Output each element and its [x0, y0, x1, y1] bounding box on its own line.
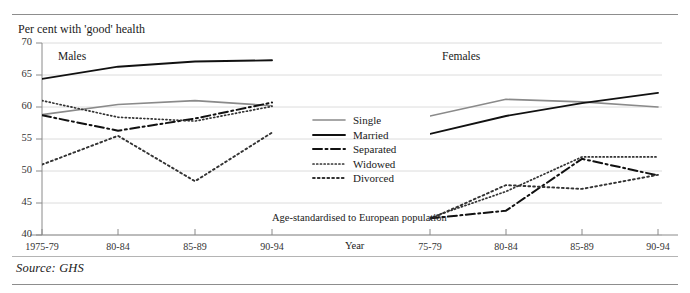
legend-item-single: Single	[312, 113, 396, 128]
legend-label: Separated	[353, 143, 396, 155]
series-group-males	[42, 60, 272, 181]
source-rule-top	[12, 256, 678, 257]
series-line-single	[42, 101, 272, 115]
axis-note: Age-standardised to European population	[272, 212, 447, 223]
legend-item-divorced: Divorced	[312, 171, 396, 186]
legend-item-separated: Separated	[312, 142, 396, 157]
bottom-rule	[12, 284, 678, 285]
y-tick-55: 55	[8, 132, 32, 143]
legend-label: Married	[353, 129, 388, 141]
legend: SingleMarriedSeparatedWidowedDivorced	[312, 113, 396, 186]
y-tick-45: 45	[8, 196, 32, 207]
y-tick-50: 50	[8, 164, 32, 175]
panel-title-females: Females	[442, 50, 480, 62]
y-tick-40: 40	[8, 228, 32, 239]
source-note: Source: GHS	[16, 261, 84, 276]
series-line-divorced	[430, 175, 658, 219]
x-tick-85-89: 85-89	[552, 241, 612, 252]
legend-label: Divorced	[353, 172, 394, 184]
x-tick-1975-79: 1975-79	[12, 241, 72, 252]
x-tick-90-94: 90-94	[242, 241, 302, 252]
legend-label: Single	[353, 114, 381, 126]
x-axis-label: Year	[345, 240, 364, 251]
legend-item-married: Married	[312, 128, 396, 143]
x-tick-80-84: 80-84	[88, 241, 148, 252]
x-tick-75-79: 75-79	[400, 241, 460, 252]
series-line-divorced	[42, 133, 272, 182]
legend-swatch-single	[312, 115, 346, 125]
legend-swatch-divorced	[312, 173, 346, 183]
y-tick-70: 70	[8, 36, 32, 47]
legend-swatch-married	[312, 130, 346, 140]
series-line-single	[430, 99, 658, 116]
panel-title-males: Males	[58, 50, 86, 62]
x-tick-85-89: 85-89	[165, 241, 225, 252]
legend-label: Widowed	[353, 158, 395, 170]
x-tick-90-94: 90-94	[628, 241, 688, 252]
chart-figure: Per cent with 'good' health 706560555045…	[0, 0, 690, 293]
series-line-married	[430, 93, 658, 134]
x-tick-80-84: 80-84	[476, 241, 536, 252]
series-line-separated	[430, 159, 658, 219]
y-tick-60: 60	[8, 100, 32, 111]
y-tick-65: 65	[8, 68, 32, 79]
legend-item-widowed: Widowed	[312, 157, 396, 172]
series-group-females	[430, 93, 658, 219]
legend-swatch-separated	[312, 144, 346, 154]
legend-swatch-widowed	[312, 159, 346, 169]
series-line-married	[42, 60, 272, 79]
